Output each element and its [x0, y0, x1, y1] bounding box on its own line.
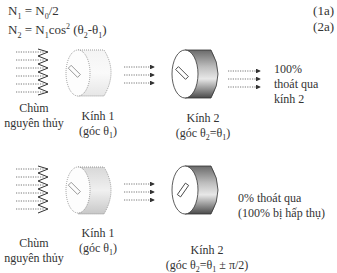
filter-2-label-top: Kính 2 (góc θ2=θ1): [168, 111, 238, 145]
filter-1-bottom: [66, 167, 111, 214]
source-label-bottom: Chùm nguyên thủy: [4, 236, 64, 266]
source-beam-bottom: [16, 166, 48, 213]
filter-1-label-bottom: Kính 1 (góc θ1): [68, 226, 128, 260]
beam-after-filter2-top: [228, 71, 260, 87]
result-label-top: 100% thoát qua kính 2: [274, 62, 318, 107]
result-label-bottom: 0% thoát qua (100% bị hấp thụ): [238, 191, 325, 221]
filter-2-top: [172, 50, 218, 98]
source-label-top: Chùm nguyên thủy: [4, 101, 64, 131]
filter-2-bottom: [172, 166, 218, 214]
filter-1-label-top: Kính 1 (góc θ1): [68, 109, 128, 143]
source-beam-top: [16, 49, 48, 95]
filter-2-label-bottom: Kính 2 (góc θ2=θ1 ± π/2): [152, 243, 262, 273]
beam-after-filter1-top: [124, 67, 154, 83]
filter-1-top: [66, 50, 111, 96]
beam-after-filter1-bottom: [124, 184, 154, 200]
